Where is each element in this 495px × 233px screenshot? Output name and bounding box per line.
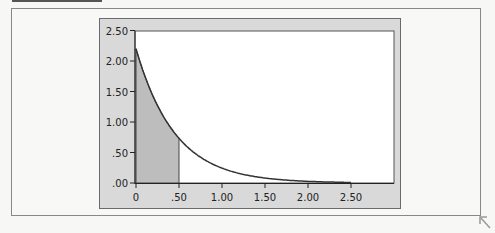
y-tick-label: .00 <box>112 178 128 189</box>
x-tick-label: .50 <box>171 192 187 203</box>
x-tick-label: 2.00 <box>297 192 319 203</box>
y-tick-label: 2.50 <box>106 26 128 37</box>
x-tick-label: 0 <box>133 192 139 203</box>
chart-svg: 2.502.001.501.00.50.00 0.501.001.502.002… <box>0 0 495 233</box>
y-ticks: 2.502.001.501.00.50.00 <box>106 26 135 190</box>
x-tick-label: 2.50 <box>340 192 362 203</box>
y-tick-label: 1.50 <box>106 87 128 98</box>
x-ticks: 0.501.001.502.002.50 <box>133 183 362 203</box>
y-tick-label: 2.00 <box>106 56 128 67</box>
y-tick-label: 1.00 <box>106 117 128 128</box>
y-tick-label: .50 <box>112 148 128 159</box>
x-tick-label: 1.00 <box>211 192 233 203</box>
x-tick-label: 1.50 <box>254 192 276 203</box>
resize-arrow-icon[interactable] <box>478 215 492 231</box>
